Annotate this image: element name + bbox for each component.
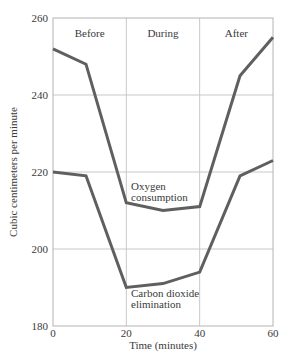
- y-axis-ticks: 180200220240260: [32, 12, 49, 332]
- chart: BeforeDuringAfter OxygenconsumptionCarbo…: [0, 0, 285, 352]
- x-tick-label: 0: [50, 327, 56, 339]
- x-axis-label: Time (minutes): [129, 339, 197, 352]
- phase-label-after: After: [225, 27, 249, 39]
- y-tick-label: 200: [32, 243, 49, 255]
- oxygen-label: consumption: [131, 191, 188, 203]
- y-tick-label: 180: [32, 320, 49, 332]
- phase-label-before: Before: [75, 27, 105, 39]
- y-axis-label: Cubic centimeters per minute: [7, 107, 19, 237]
- x-tick-label: 20: [121, 327, 133, 339]
- y-tick-label: 220: [32, 166, 49, 178]
- co2-label: elimination: [131, 298, 182, 310]
- phase-labels: BeforeDuringAfter: [75, 27, 249, 39]
- x-tick-label: 40: [194, 327, 206, 339]
- y-tick-label: 260: [32, 12, 49, 24]
- series-labels: OxygenconsumptionCarbon dioxideeliminati…: [131, 180, 199, 310]
- x-axis-ticks: 0204060: [50, 327, 279, 339]
- x-tick-label: 60: [268, 327, 280, 339]
- y-tick-label: 240: [32, 89, 49, 101]
- phase-label-during: During: [147, 27, 179, 39]
- data-series: [53, 37, 273, 287]
- line-chart: BeforeDuringAfter OxygenconsumptionCarbo…: [0, 0, 285, 352]
